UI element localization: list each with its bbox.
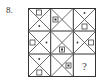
puzzle-grid-svg: ? [28,8,96,77]
square-icon [37,70,42,75]
dot-icon [46,42,48,44]
dot-icon [38,58,40,60]
cell-r1c1 [29,9,50,30]
square-icon [89,40,94,45]
cell-r2c2 [52,32,73,53]
dot-icon [84,12,86,14]
dot-icon [38,25,40,27]
cell-r3c2 [52,55,73,76]
square-icon [30,40,35,45]
question-number: 8. [6,5,13,15]
square-icon [37,10,42,15]
cell-r1c3 [74,9,95,30]
cell-r3c1 [29,55,50,76]
square-icon [82,24,87,29]
unknown-answer-mark: ? [82,60,87,72]
cell-r2c3 [74,32,95,53]
cell-r1c2 [52,9,73,30]
dot-icon [77,42,79,44]
cell-r2c1 [29,32,50,53]
cell-r3c3: ? [82,60,87,72]
puzzle-grid: ? [28,8,96,77]
